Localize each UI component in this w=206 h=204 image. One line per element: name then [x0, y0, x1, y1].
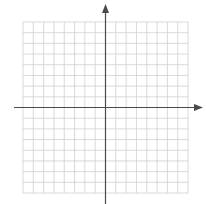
coordinate-grid-svg: [0, 0, 206, 204]
x-axis-arrow-icon: [194, 104, 203, 111]
coordinate-plane: [0, 0, 206, 204]
axes: [14, 4, 203, 204]
y-axis-arrow-icon: [102, 4, 109, 13]
